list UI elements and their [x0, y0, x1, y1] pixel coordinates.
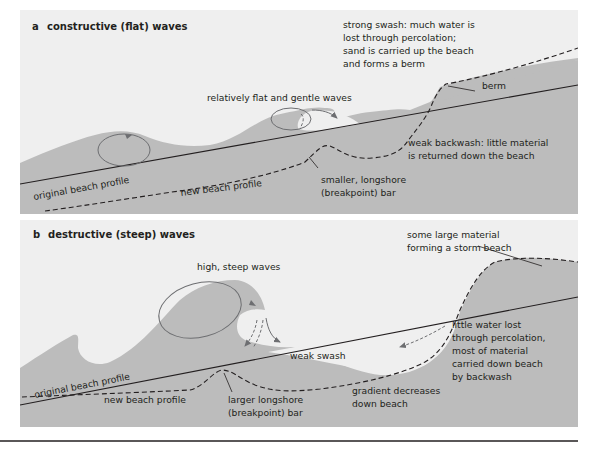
panel-b-percolation-label-1: little water lost [452, 319, 521, 330]
panel-b-percolation-label-2: through percolation, [452, 332, 546, 343]
panel-b-bar-label-2: (breakpoint) bar [228, 407, 303, 418]
panel-a-swash-label-4: and forms a berm [343, 58, 425, 69]
panel-b-storm-beach-label-2: forming a storm beach [407, 242, 512, 253]
panel-b: b destructive (steep) waves some large m… [20, 220, 578, 427]
panel-a-bar-label-1: smaller, longshore [321, 174, 406, 185]
panel-a: a constructive (flat) waves strong swash… [20, 10, 578, 214]
panel-b-storm-beach-label-1: some large material [407, 229, 499, 240]
panel-b-waves-label: high, steep waves [197, 261, 281, 272]
panel-a-backwash-label-2: is returned down the beach [408, 150, 535, 161]
panel-a-title: constructive (flat) waves [47, 21, 187, 32]
beach-profile-diagram: a constructive (flat) waves strong swash… [0, 0, 600, 452]
panel-a-swash-label-1: strong swash: much water is [343, 19, 475, 30]
panel-a-bar-label-2: (breakpoint) bar [321, 187, 396, 198]
panel-b-percolation-label-3: most of material [452, 345, 528, 356]
panel-b-percolation-label-5: by backwash [452, 371, 512, 382]
panel-b-new-profile-label: new beach profile [104, 394, 186, 405]
panel-b-letter: b [33, 229, 40, 240]
panel-a-waves-label: relatively flat and gentle waves [207, 92, 352, 103]
panel-b-swash-label: weak swash [290, 350, 346, 361]
panel-a-backwash-label-1: weak backwash: little material [408, 137, 548, 148]
panel-a-swash-label-2: lost through percolation; [343, 32, 456, 43]
panel-b-bar-label-1: larger longshore [228, 394, 304, 405]
panel-b-gradient-label-2: down beach [352, 398, 408, 409]
panel-b-title: destructive (steep) waves [48, 229, 195, 240]
panel-a-letter: a [32, 21, 39, 32]
panel-a-swash-label-3: sand is carried up the beach [343, 45, 474, 56]
panel-b-percolation-label-4: carried down beach [452, 358, 543, 369]
panel-b-gradient-label-1: gradient decreases [352, 385, 440, 396]
panel-a-berm-label: berm [482, 80, 506, 91]
